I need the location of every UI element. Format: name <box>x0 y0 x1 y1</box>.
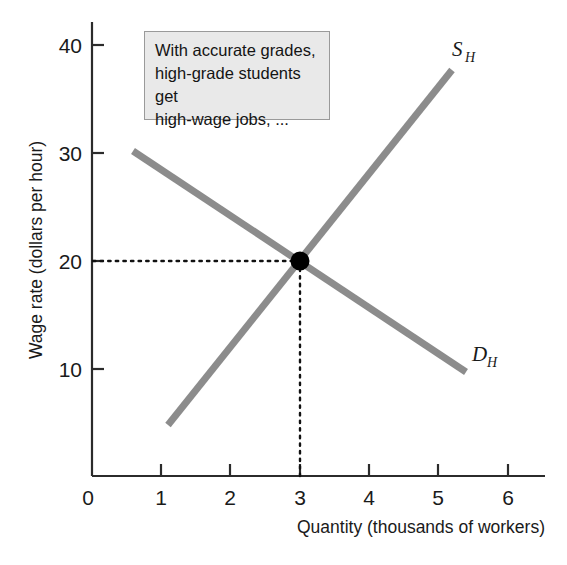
annotation-line-2: high-grade students get <box>155 64 301 105</box>
y-tick-label-20: 20 <box>59 250 82 273</box>
annotation-text: With accurate grades,high-grade students… <box>155 39 327 131</box>
demand-curve-label: D <box>471 342 487 366</box>
y-tick-label-40: 40 <box>59 34 82 57</box>
annotation-box: With accurate grades,high-grade students… <box>144 31 330 120</box>
x-axis-ticks <box>161 464 508 476</box>
x-tick-label-4: 4 <box>363 486 375 509</box>
annotation-line-3: high-wage jobs, ... <box>155 110 289 128</box>
x-tick-label-2: 2 <box>224 486 236 509</box>
x-tick-label-3: 3 <box>294 486 306 509</box>
equilibrium-point <box>291 252 310 271</box>
x-axis-title: Quantity (thousands of workers) <box>297 517 545 537</box>
x-tick-label-0: 0 <box>82 486 94 509</box>
annotation-line-1: With accurate grades, <box>155 41 316 59</box>
x-tick-label-5: 5 <box>432 486 444 509</box>
x-tick-label-1: 1 <box>155 486 167 509</box>
supply-curve-label: S <box>452 37 463 61</box>
y-tick-label-30: 30 <box>59 142 82 165</box>
supply-curve-label-subscript: H <box>464 50 476 65</box>
y-axis-ticks <box>92 45 104 369</box>
y-axis-title: Wage rate (dollars per hour) <box>26 141 46 359</box>
x-tick-label-6: 6 <box>502 486 514 509</box>
supply-demand-figure: 40 30 20 10 0 1 2 3 4 5 6 Wage rate (dol… <box>0 0 567 565</box>
y-tick-label-10: 10 <box>59 358 82 381</box>
demand-curve-label-subscript: H <box>486 355 498 370</box>
